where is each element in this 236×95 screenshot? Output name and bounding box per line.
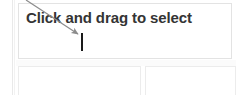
text-caret xyxy=(81,33,83,51)
text-input-field[interactable]: Click and drag to select xyxy=(18,3,232,59)
empty-box-left[interactable] xyxy=(18,66,141,95)
lower-box-row xyxy=(18,66,236,95)
gutter-rule-outer xyxy=(12,0,13,95)
screenshot-root: Click and drag to select xyxy=(0,0,236,95)
empty-box-right[interactable] xyxy=(145,66,236,95)
text-input-value: Click and drag to select xyxy=(26,8,216,28)
gutter-rule-inner xyxy=(14,0,15,95)
